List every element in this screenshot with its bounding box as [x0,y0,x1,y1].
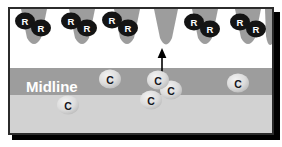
cue-left-lower: C [57,96,79,115]
cue-label: C [147,95,155,107]
receptor-5b: R [200,21,220,38]
receptor-label: R [237,17,244,28]
receptor-label: R [109,15,116,26]
cue-label: C [167,85,175,97]
receptor-6b: R [246,21,266,38]
receptor-label: R [207,24,214,35]
receptor-label: R [125,23,132,34]
cue-label: C [234,78,242,90]
cue-label: C [106,74,114,86]
receptor-2b: R [77,20,97,37]
receptor-label: R [38,23,45,34]
receptor-label: R [68,16,75,27]
receptor-label: R [84,23,91,34]
cue-center-lower: C [140,91,162,110]
cue-label: C [64,100,72,112]
midline-label: Midline [26,78,78,95]
receptor-1b: R [31,20,51,37]
receptor-3b: R [118,20,138,37]
cue-center-upper: C [147,71,169,90]
receptor-label: R [253,24,260,35]
cue-left-upper: C [99,70,121,89]
midline-guidance-diagram: Midline R R R R R [0,0,282,147]
receptor-label: R [22,16,29,27]
figure-root: Midline R R R R R [0,0,282,147]
cue-right: C [227,74,249,93]
receptor-label: R [191,17,198,28]
cue-label: C [154,75,162,87]
